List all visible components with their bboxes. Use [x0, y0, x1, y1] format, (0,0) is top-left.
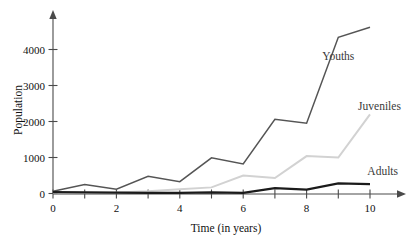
x-axis-arrowhead — [397, 190, 406, 197]
y-tick-label-0: 0 — [40, 188, 46, 200]
x-tick-label-8: 8 — [304, 202, 310, 214]
series-line-juveniles — [53, 114, 370, 192]
y-tick-labels: 01000200030004000 — [23, 44, 46, 200]
x-tick-label-6: 6 — [240, 202, 246, 214]
x-tick-label-2: 2 — [114, 202, 120, 214]
y-axis-arrowhead — [49, 10, 56, 19]
chart-canvas: 01000200030004000 0246810 YouthsJuvenile… — [0, 0, 415, 237]
series-label-youths: Youths — [322, 50, 355, 62]
y-tick-label-1000: 1000 — [23, 152, 46, 164]
x-tick-label-0: 0 — [50, 202, 56, 214]
population-line-chart: 01000200030004000 0246810 YouthsJuvenile… — [0, 0, 415, 237]
x-tick-labels: 0246810 — [50, 202, 376, 214]
y-tick-label-4000: 4000 — [23, 44, 46, 56]
x-tick-label-10: 10 — [365, 202, 377, 214]
x-tick-label-4: 4 — [177, 202, 183, 214]
y-axis: 01000200030004000 — [23, 10, 58, 200]
y-tick-label-3000: 3000 — [23, 80, 46, 92]
series-label-adults: Adults — [367, 165, 398, 177]
y-tick-label-2000: 2000 — [23, 116, 46, 128]
x-axis-title: Time (in years) — [191, 222, 262, 235]
y-axis-title: Population — [12, 85, 25, 135]
series-label-juveniles: Juveniles — [358, 100, 401, 112]
